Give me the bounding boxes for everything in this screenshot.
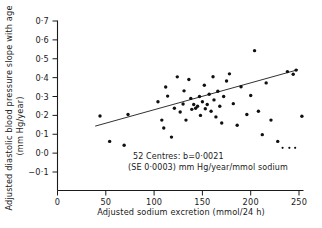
x-axis-ticks	[58, 191, 300, 196]
data-point	[108, 140, 111, 143]
x-tick-label: 100	[146, 197, 162, 207]
y-tick-label: 0·1	[35, 129, 49, 139]
x-axis-tick-labels: 050100150200250	[55, 197, 307, 207]
data-point	[216, 90, 219, 93]
y-axis-title-line-1: Adjusted diastolic blood pressure slope …	[4, 5, 14, 210]
scatter-plot-figure: −0·10·00·10·20·30·40·50·60·7 05010015020…	[0, 0, 322, 228]
data-point	[228, 72, 231, 75]
data-point	[222, 95, 225, 98]
data-point	[173, 107, 176, 110]
data-point	[269, 118, 272, 121]
data-point	[206, 103, 209, 106]
data-point	[170, 135, 173, 138]
data-point	[187, 78, 190, 81]
data-point	[232, 102, 235, 105]
data-point	[249, 94, 252, 97]
chart-canvas: −0·10·00·10·20·30·40·50·60·7 05010015020…	[0, 0, 322, 228]
data-point	[203, 83, 206, 86]
y-tick-label: 0·5	[35, 54, 49, 64]
y-tick-label: 0·7	[35, 16, 49, 26]
y-axis-tick-labels: −0·10·00·10·20·30·40·50·60·7	[28, 16, 49, 177]
x-tick-label: 250	[291, 197, 307, 207]
data-point	[164, 85, 167, 88]
data-point	[264, 81, 267, 84]
data-point	[199, 114, 202, 117]
data-point	[176, 75, 179, 78]
y-tick-label: −0·1	[28, 167, 49, 177]
annotation-line-2: (SE 0·0003) mm Hg/year/mmol sodium	[128, 163, 288, 172]
x-tick-label: 150	[194, 197, 210, 207]
data-point	[166, 94, 169, 97]
data-point	[178, 110, 181, 113]
y-tick-label: 0·0	[35, 148, 49, 158]
data-point-small	[288, 147, 290, 149]
data-point	[286, 70, 289, 73]
data-point	[253, 49, 256, 52]
data-point	[181, 102, 184, 105]
data-point	[182, 89, 185, 92]
data-point	[245, 113, 248, 116]
data-point	[218, 105, 221, 108]
data-point	[156, 100, 159, 103]
data-point	[294, 68, 297, 71]
data-point	[162, 126, 165, 129]
data-point	[235, 123, 238, 126]
data-point	[261, 133, 264, 136]
y-tick-label: 0·2	[35, 110, 49, 120]
data-point	[276, 140, 279, 143]
regression-annotation: 52 Centres: b=0·0021 (SE 0·0003) mm Hg/y…	[128, 152, 288, 172]
data-point	[198, 95, 201, 98]
data-point	[98, 114, 101, 117]
data-point	[196, 105, 199, 108]
data-point	[204, 107, 207, 110]
data-point	[257, 110, 260, 113]
data-points-group	[98, 49, 303, 147]
x-tick-label: 0	[55, 197, 60, 207]
data-point	[214, 115, 217, 118]
data-point	[190, 108, 193, 111]
data-point	[122, 143, 125, 146]
small-data-points-group	[281, 147, 296, 149]
data-point	[239, 85, 242, 88]
data-point	[300, 115, 303, 118]
data-point-small	[281, 147, 283, 149]
x-axis-title: Adjusted sodium excretion (mmol/24 h)	[97, 207, 265, 217]
data-point	[212, 98, 215, 101]
data-point	[126, 113, 129, 116]
y-tick-label: 0·4	[35, 73, 49, 83]
annotation-line-1: 52 Centres: b=0·0021	[133, 152, 224, 161]
regression-line	[95, 70, 298, 126]
data-point	[292, 73, 295, 76]
y-tick-label: 0·6	[35, 35, 49, 45]
data-point	[209, 110, 212, 113]
x-tick-label: 50	[100, 197, 111, 207]
data-point	[211, 75, 214, 78]
x-tick-label: 200	[243, 197, 259, 207]
y-axis-title: Adjusted diastolic blood pressure slope …	[4, 5, 25, 210]
y-axis-title-line-2: (mm Hg/year)	[15, 96, 25, 155]
data-point	[207, 93, 210, 96]
data-point	[160, 118, 163, 121]
data-point	[201, 100, 204, 103]
y-axis-ticks	[53, 21, 58, 172]
data-point	[225, 79, 228, 82]
data-point	[189, 97, 192, 100]
data-point	[220, 121, 223, 124]
data-point	[184, 118, 187, 121]
y-tick-label: 0·3	[35, 92, 49, 102]
data-point-small	[294, 147, 296, 149]
data-point	[192, 103, 195, 106]
